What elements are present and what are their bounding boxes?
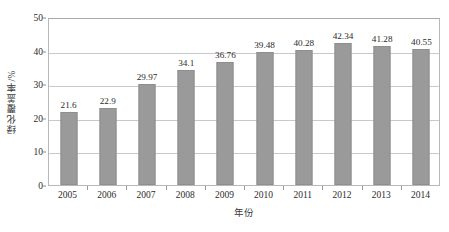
bar-slot: 21.6 [49, 19, 88, 185]
x-axis-tick-mark [244, 186, 245, 190]
y-axis-tick-label: 30 [34, 80, 44, 90]
bar [138, 84, 155, 185]
y-axis-tick-mark [43, 18, 46, 19]
x-axis-tick-mark [205, 186, 206, 190]
bar-value-label: 41.28 [372, 34, 393, 44]
bar [60, 112, 77, 185]
bar [217, 62, 234, 186]
x-axis-tick-mark [87, 186, 88, 190]
bar [178, 70, 195, 185]
bar-value-label: 40.28 [293, 38, 314, 48]
bar-value-label: 21.6 [61, 100, 77, 110]
bar-slot: 42.34 [323, 19, 362, 185]
x-axis-tick-label: 2012 [333, 190, 352, 200]
x-axis-tick-mark [401, 186, 402, 190]
y-axis-title-text: 绿化覆盖率/% [5, 70, 19, 134]
bar-series: 21.622.929.9734.136.7639.4840.2842.3441.… [49, 19, 439, 185]
y-axis-tick-label: 40 [34, 47, 44, 57]
x-axis-tick-label: 2013 [372, 190, 391, 200]
bar-slot: 36.76 [206, 19, 245, 185]
x-axis-tick-mark [283, 186, 284, 190]
bar-value-label: 36.76 [215, 50, 236, 60]
x-axis-tick-label: 2010 [254, 190, 273, 200]
bar [256, 52, 273, 185]
x-axis-tick-label: 2009 [215, 190, 234, 200]
y-axis-tick-labels: 01020304050 [20, 0, 46, 232]
x-axis-tick-label: 2014 [411, 190, 430, 200]
bar [334, 43, 351, 185]
x-axis-tick-label: 2011 [293, 190, 312, 200]
y-axis-tick-mark [43, 51, 46, 52]
bar-slot: 40.28 [284, 19, 323, 185]
bar-slot: 29.97 [127, 19, 166, 185]
bar-slot: 39.48 [245, 19, 284, 185]
x-axis-tick-mark [322, 186, 323, 190]
bar-value-label: 39.48 [254, 40, 275, 50]
y-axis-title: 绿化覆盖率/% [2, 18, 22, 186]
x-axis-tick-mark [126, 186, 127, 190]
x-axis-tick-label: 2005 [58, 190, 77, 200]
x-axis-tick-mark [362, 186, 363, 190]
bar-slot: 40.55 [402, 19, 441, 185]
y-axis-tick-mark [43, 186, 46, 187]
y-axis-tick-mark [43, 118, 46, 119]
bar-slot: 41.28 [363, 19, 402, 185]
x-axis-tick-mark [166, 186, 167, 190]
y-axis-tick-label: 50 [34, 13, 44, 23]
y-axis-tick-mark [43, 85, 46, 86]
x-axis-tick-label: 2007 [137, 190, 156, 200]
bar-chart-figure: 绿化覆盖率/% 01020304050 21.622.929.9734.136.… [0, 0, 449, 232]
bar-value-label: 40.55 [411, 37, 432, 47]
x-axis-title: 年份 [48, 205, 440, 219]
bar-slot: 22.9 [88, 19, 127, 185]
plot-area: 21.622.929.9734.136.7639.4840.2842.3441.… [48, 18, 440, 186]
y-axis-tick-label: 20 [34, 114, 44, 124]
bar-value-label: 34.1 [178, 58, 194, 68]
y-axis-tick-mark [43, 152, 46, 153]
bar-value-label: 29.97 [137, 72, 158, 82]
bar [374, 46, 391, 185]
y-axis-tick-label: 10 [34, 147, 44, 157]
bar [99, 108, 116, 185]
bar [295, 50, 312, 185]
bar [413, 49, 430, 185]
bar-slot: 34.1 [167, 19, 206, 185]
bar-value-label: 22.9 [100, 96, 116, 106]
x-axis-tick-label: 2008 [176, 190, 195, 200]
x-axis-tick-label: 2006 [97, 190, 116, 200]
bar-value-label: 42.34 [333, 31, 354, 41]
